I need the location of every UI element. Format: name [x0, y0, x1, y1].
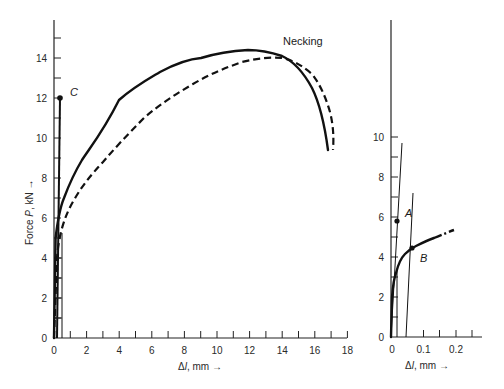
y-tick-label: 4: [41, 253, 47, 264]
x-tick-label: 12: [244, 345, 256, 356]
y-tick-label: 12: [36, 93, 48, 104]
left-x-tick-labels: 0 2 4 6 8 10 12 14 16 18: [51, 345, 353, 356]
x-tick-label: 0.1: [417, 344, 431, 355]
x-tick-label: 14: [277, 345, 289, 356]
y-tick-label: 0: [41, 333, 47, 344]
right-curve-dashdot: [434, 230, 454, 238]
x-tick-label: 6: [149, 345, 155, 356]
force-elongation-figure: 0 2 4 6 8 10 12 14 0 2 4 6 8 10 12 14 16…: [0, 0, 504, 389]
point-a-marker: [394, 218, 399, 223]
left-x-ticks: [70, 331, 347, 338]
x-tick-label: 0: [389, 344, 395, 355]
point-c-label: C: [70, 86, 78, 98]
y-tick-label: 2: [378, 292, 384, 303]
right-chart: 0 2 4 6 8 10 0 0.1 0.2 Δl, mm → A B: [373, 20, 482, 371]
solid-curve: [54, 50, 328, 338]
right-x-tick-labels: 0 0.1 0.2: [389, 344, 463, 355]
left-chart: 0 2 4 6 8 10 12 14 0 2 4 6 8 10 12 14 16…: [24, 20, 353, 372]
y-tick-label: 14: [36, 53, 48, 64]
x-tick-label: 0.2: [449, 344, 463, 355]
x-tick-label: 2: [84, 345, 90, 356]
x-tick-label: 8: [182, 345, 188, 356]
dashed-curve: [54, 58, 333, 338]
y-tick-label: 8: [41, 173, 47, 184]
point-c-marker: [57, 95, 63, 101]
x-tick-label: 16: [309, 345, 321, 356]
y-tick-label: 6: [41, 213, 47, 224]
point-b-marker: [409, 245, 414, 250]
y-tick-label: 10: [36, 133, 48, 144]
right-x-axis-title: Δl, mm →: [405, 360, 449, 371]
right-y-tick-labels: 0 2 4 6 8 10: [373, 132, 385, 343]
y-tick-label: 0: [378, 332, 384, 343]
y-tick-label: 10: [373, 132, 385, 143]
x-tick-label: 0: [51, 345, 57, 356]
right-x-ticks: [424, 330, 473, 337]
y-tick-label: 4: [378, 252, 384, 263]
left-y-axis-title: Force P, kN →: [24, 179, 35, 245]
left-x-axis-title: Δl, mm →: [178, 361, 222, 372]
y-tick-label: 2: [41, 293, 47, 304]
x-tick-label: 4: [116, 345, 122, 356]
y-tick-label: 6: [378, 212, 384, 223]
left-y-tick-labels: 0 2 4 6 8 10 12 14: [36, 53, 48, 344]
point-a-label: A: [404, 207, 412, 219]
necking-label: Necking: [283, 35, 323, 47]
point-b-label: B: [420, 252, 427, 264]
y-tick-label: 8: [378, 172, 384, 183]
x-tick-label: 10: [211, 345, 223, 356]
x-tick-label: 18: [342, 345, 354, 356]
